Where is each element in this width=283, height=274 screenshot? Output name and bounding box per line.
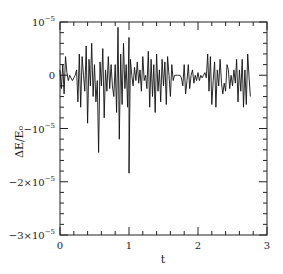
plot-area	[60, 27, 250, 173]
y-tick-label: −2×10−5	[9, 175, 55, 188]
y-tick-label: 10−5	[32, 15, 55, 28]
y-tick-label: 0	[49, 70, 55, 81]
y-tick-label: −10−5	[24, 122, 55, 135]
x-axis-label: t	[161, 253, 166, 266]
x-tick-label: 0	[57, 240, 63, 251]
y-tick-label: −3×10−5	[9, 228, 55, 241]
data-series-line	[60, 27, 250, 173]
x-tick-label: 2	[195, 240, 201, 251]
x-axis-tick-labels: 0123	[57, 240, 270, 251]
x-tick-label: 1	[126, 240, 132, 251]
energy-error-chart: 0123 10−50−10−5−2×10−5−3×10−5 t ΔE/E₀	[0, 0, 283, 274]
y-axis-label: ΔE/E₀	[13, 125, 26, 158]
x-tick-label: 3	[264, 240, 270, 251]
